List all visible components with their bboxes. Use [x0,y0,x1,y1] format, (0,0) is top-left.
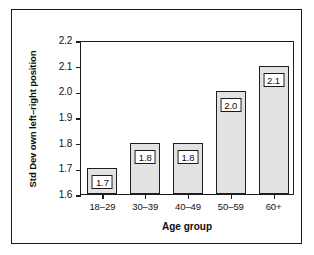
y-axis-tick-mark [76,41,81,42]
y-axis-tick-label: 2.0 [59,86,72,97]
plot-area: 2.22.12.01.91.81.71.61.718–291.830–391.8… [81,42,293,194]
y-axis-tick-mark [76,118,81,119]
bar-value-label: 1.8 [178,150,199,164]
y-axis-tick-mark [76,93,81,94]
bar-value-label: 2.1 [263,73,284,87]
y-axis-tick-mark [76,170,81,171]
bar-value-label: 2.0 [220,98,241,112]
bar: 2.0 [216,91,246,194]
x-axis-tick-mark [274,194,275,199]
y-axis-tick-label: 1.7 [59,163,72,174]
bar: 1.8 [173,143,203,194]
y-axis-tick-mark [76,195,81,196]
x-axis-tick-label: 60+ [266,201,282,212]
x-axis-tick-label: 18–29 [89,201,115,212]
y-axis-tick-label: 2.2 [59,35,72,46]
bar-value-label: 1.8 [135,150,156,164]
x-axis-tick-mark [188,194,189,199]
bar-value-label: 1.7 [92,175,113,189]
bar: 1.7 [87,168,117,194]
y-axis-tick-label: 1.6 [59,189,72,200]
y-axis-tick-mark [76,144,81,145]
x-axis-tick-mark [102,194,103,199]
x-axis-tick-label: 30–39 [132,201,158,212]
x-axis-tick-mark [231,194,232,199]
y-axis-tick-label: 1.8 [59,138,72,149]
y-axis-tick-label: 1.9 [59,112,72,123]
x-axis-tick-label: 50–59 [218,201,244,212]
y-axis-tick-label: 2.1 [59,61,72,72]
bar: 2.1 [259,66,289,194]
bar: 1.8 [130,143,160,194]
figure-border: Std Dev own left–right position 2.22.12.… [11,9,302,244]
y-axis-label: Std Dev own left–right position [27,42,38,196]
x-axis-label: Age group [81,221,293,232]
figure: Std Dev own left–right position 2.22.12.… [0,0,314,255]
x-axis-tick-label: 40–49 [175,201,201,212]
y-axis-tick-mark [76,67,81,68]
plot-frame: Std Dev own left–right position 2.22.12.… [80,41,294,195]
x-axis-tick-mark [145,194,146,199]
